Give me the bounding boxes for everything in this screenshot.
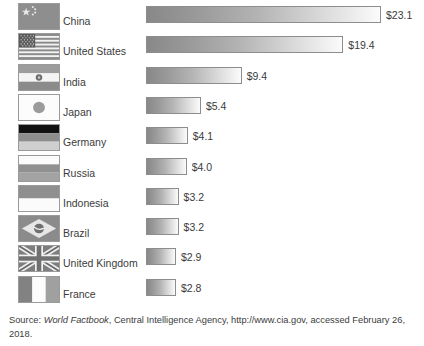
flag-france-icon <box>18 276 60 303</box>
value-bar <box>146 36 343 53</box>
country-label: United States <box>63 32 126 62</box>
source-publication: World Factbook <box>44 315 109 325</box>
chart-row: Brazil$3.2 <box>0 214 424 244</box>
value-bar <box>146 188 179 205</box>
value-label: $19.4 <box>348 36 374 53</box>
value-label: $2.9 <box>181 248 201 265</box>
value-bar <box>146 6 381 23</box>
value-bar <box>146 97 201 114</box>
country-label: France <box>63 275 96 305</box>
country-label: India <box>63 63 86 93</box>
country-label: Brazil <box>63 214 89 244</box>
country-label: Russia <box>63 154 95 184</box>
value-label: $5.4 <box>206 97 226 114</box>
flag-united-kingdom-icon <box>18 245 60 272</box>
country-label: United Kingdom <box>63 244 138 274</box>
value-label: $3.2 <box>184 218 204 235</box>
flag-united-states-icon <box>18 33 60 60</box>
country-label: Indonesia <box>63 184 109 214</box>
source-note: Source: World Factbook, Central Intellig… <box>9 313 417 341</box>
value-label: $23.1 <box>386 6 412 23</box>
chart-row: Japan$5.4 <box>0 93 424 123</box>
value-label: $4.1 <box>193 127 213 144</box>
chart-row: Russia$4.0 <box>0 154 424 184</box>
flag-germany-icon <box>18 124 60 151</box>
chart-row: India$9.4 <box>0 63 424 93</box>
chart-row: Germany$4.1 <box>0 123 424 153</box>
value-bar <box>146 218 179 235</box>
flag-india-icon <box>18 64 60 91</box>
country-label: Japan <box>63 93 92 123</box>
value-label: $4.0 <box>192 158 212 175</box>
value-bar <box>146 248 176 265</box>
flag-indonesia-icon <box>18 185 60 212</box>
value-label: $2.8 <box>181 279 201 296</box>
flag-russia-icon <box>18 155 60 182</box>
value-bar <box>146 67 242 84</box>
bar-chart: China$23.1United States$19.4India$9.4Jap… <box>0 0 424 306</box>
country-label: Germany <box>63 123 106 153</box>
value-label: $9.4 <box>247 67 267 84</box>
value-label: $3.2 <box>184 188 204 205</box>
chart-row: Indonesia$3.2 <box>0 184 424 214</box>
country-label: China <box>63 2 90 32</box>
flag-brazil-icon <box>18 215 60 242</box>
source-lead: Source: <box>9 315 44 325</box>
chart-row: United States$19.4 <box>0 32 424 62</box>
value-bar <box>146 279 176 296</box>
chart-row: France$2.8 <box>0 275 424 305</box>
flag-china-icon <box>18 3 60 30</box>
chart-row: United Kingdom$2.9 <box>0 244 424 274</box>
flag-japan-icon <box>18 94 60 121</box>
value-bar <box>146 158 187 175</box>
value-bar <box>146 127 188 144</box>
chart-row: China$23.1 <box>0 2 424 32</box>
